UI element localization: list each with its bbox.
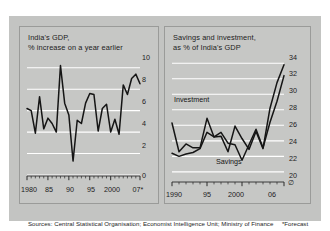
- chart-panel-gdp: India's GDP, % increase on a year earlie…: [19, 26, 159, 204]
- x-axis-savings-investment: [172, 181, 284, 188]
- y-tick-label: 30: [289, 86, 307, 95]
- y-tick-label: 26: [289, 120, 307, 129]
- x-tick-label: 07*: [125, 185, 151, 194]
- chart-title-gdp: India's GDP, % increase on a year earlie…: [28, 33, 154, 52]
- x-tick-label: 06: [259, 190, 285, 199]
- economist-chart-figure: India's GDP, % increase on a year earlie…: [0, 0, 330, 231]
- plot-area-gdp: [27, 57, 140, 175]
- x-tick-label: 2000: [99, 185, 125, 194]
- gdp-line-svg: [27, 57, 140, 175]
- chart-panel-savings-investment: Savings and investment, as % of India's …: [164, 26, 311, 204]
- y-tick-label: 22: [289, 154, 307, 163]
- x-axis-gdp: [27, 175, 140, 182]
- y-tick-label: 24: [289, 137, 307, 146]
- y-tick-label: 34: [289, 53, 307, 62]
- chart-plate: India's GDP, % increase on a year earlie…: [9, 16, 321, 221]
- y-tick-label: 28: [289, 103, 307, 112]
- y-tick-label: 32: [289, 69, 307, 78]
- chart-title-savings-investment: Savings and investment, as % of India's …: [173, 33, 306, 52]
- source-note: Sources: Central Statistical Organisatio…: [28, 220, 273, 227]
- x-tick-label: 2000: [223, 190, 249, 199]
- x-tick-label: 95: [194, 190, 220, 199]
- y-tick-label: 10: [142, 53, 160, 62]
- y-tick-label: 8: [142, 75, 160, 84]
- series-label-investment: Investment: [174, 95, 209, 104]
- y-tick-label: 4: [142, 119, 160, 128]
- forecast-note: *Forecast: [282, 220, 308, 227]
- x-tick-label: 1990: [161, 190, 187, 199]
- series-label-savings: Savings: [216, 157, 242, 166]
- y-tick-label: 2: [142, 141, 160, 150]
- y-tick-label: 6: [142, 97, 160, 106]
- axis-break-icon: ∅: [288, 179, 294, 187]
- y-tick-label: 0: [142, 171, 160, 180]
